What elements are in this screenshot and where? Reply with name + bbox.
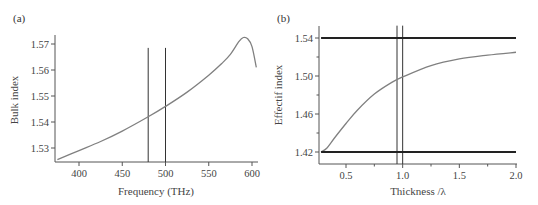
x-tick-label: 400 [71, 168, 87, 179]
y-tick-label: 1.54 [295, 33, 314, 44]
panel-b-x-ticks: 0.51.01.52.0 [339, 164, 522, 181]
x-tick-label: 550 [201, 168, 217, 179]
y-tick-label: 1.50 [295, 71, 313, 82]
panel-a-marker-lines [148, 48, 165, 162]
y-tick-label: 1.42 [295, 147, 313, 158]
panel-a-label: (a) [13, 12, 26, 25]
panel-b-label: (b) [277, 12, 290, 25]
y-tick-label: 1.54 [31, 117, 50, 128]
x-tick-label: 1.5 [453, 170, 466, 181]
panel-a-bulk-index-curve [57, 37, 256, 159]
x-tick-label: 2.0 [509, 170, 522, 181]
panel-b-effective-index-chart: (b) 1.421.461.501.54 0.51.01.52.0 Thickn… [272, 12, 523, 197]
panel-b-series [321, 38, 516, 152]
panel-b-y-ticks: 1.421.461.501.54 [295, 33, 319, 158]
x-tick-label: 1.0 [396, 170, 409, 181]
y-tick-label: 1.56 [31, 65, 49, 76]
panel-b-x-axis-label: Thickness /λ [390, 185, 446, 197]
panel-b-y-axis-label: Effectif index [272, 64, 284, 125]
x-tick-label: 600 [244, 168, 260, 179]
panel-a-y-ticks: 1.531.541.551.561.57 [31, 39, 55, 154]
panel-a-y-axis-label: Bulk index [8, 75, 20, 124]
effective-index-curve [321, 52, 516, 152]
y-tick-label: 1.55 [31, 91, 49, 102]
x-tick-label: 500 [158, 168, 174, 179]
figure: (a) 1.531.541.551.561.57 400450500550600… [0, 0, 538, 205]
panel-a-x-axis-label: Frequency (THz) [118, 185, 194, 198]
y-tick-label: 1.57 [31, 39, 49, 50]
panel-a-bulk-index-chart: (a) 1.531.541.551.561.57 400450500550600… [8, 12, 260, 198]
y-tick-label: 1.53 [31, 143, 49, 154]
panel-a-x-ticks: 400450500550600 [71, 162, 260, 179]
x-tick-label: 0.5 [339, 170, 352, 181]
y-tick-label: 1.46 [295, 109, 313, 120]
panel-b-marker-lines [397, 26, 403, 164]
x-tick-label: 450 [114, 168, 130, 179]
